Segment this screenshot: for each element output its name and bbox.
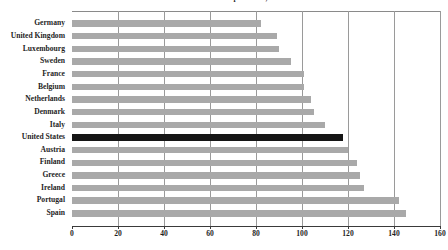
bar-sweden[interactable] bbox=[72, 58, 291, 64]
bar-united-states[interactable] bbox=[72, 134, 343, 141]
y-axis-label-sweden: Sweden bbox=[40, 55, 65, 68]
bar-italy[interactable] bbox=[72, 122, 325, 128]
bar-united-kingdom[interactable] bbox=[72, 33, 277, 39]
bar-portugal[interactable] bbox=[72, 197, 399, 203]
x-axis-tick-label-0: 0 bbox=[70, 229, 74, 238]
bar-germany[interactable] bbox=[72, 20, 261, 26]
bar-row bbox=[72, 169, 440, 182]
bar-austria[interactable] bbox=[72, 147, 348, 153]
y-axis-label-spain: Spain bbox=[46, 207, 65, 220]
bar-ireland[interactable] bbox=[72, 185, 364, 191]
bar-row bbox=[72, 182, 440, 195]
y-axis-label-italy: Italy bbox=[50, 119, 65, 132]
bar-row bbox=[72, 156, 440, 169]
x-axis-tick-label-60: 60 bbox=[206, 229, 214, 238]
bar-row bbox=[72, 194, 440, 207]
bar-spain[interactable] bbox=[72, 210, 406, 216]
plot-area bbox=[72, 11, 440, 226]
y-axis-label-belgium: Belgium bbox=[38, 81, 65, 94]
bar-row bbox=[72, 131, 440, 144]
bar-row bbox=[72, 30, 440, 43]
x-axis-tick-label-120: 120 bbox=[342, 229, 353, 238]
y-axis-label-denmark: Denmark bbox=[34, 106, 65, 119]
bar-row bbox=[72, 144, 440, 157]
bar-belgium[interactable] bbox=[72, 84, 304, 90]
y-axis-label-ireland: Ireland bbox=[41, 182, 65, 195]
y-axis-label-luxembourg: Luxembourg bbox=[23, 43, 65, 56]
y-axis-label-united-kingdom: United Kingdom bbox=[11, 30, 65, 43]
bar-row bbox=[72, 55, 440, 68]
bar-luxembourg[interactable] bbox=[72, 46, 279, 52]
y-axis-label-greece: Greece bbox=[42, 169, 65, 182]
chart-title: Total Health Care Expenditure, 1997 bbox=[0, 0, 448, 2]
bar-row bbox=[72, 81, 440, 94]
bar-row bbox=[72, 93, 440, 106]
y-axis-label-portugal: Portugal bbox=[37, 194, 65, 207]
bar-finland[interactable] bbox=[72, 160, 357, 166]
x-axis-tick-label-140: 140 bbox=[388, 229, 399, 238]
x-axis-tick-label-20: 20 bbox=[114, 229, 122, 238]
x-axis-tick-label-80: 80 bbox=[252, 229, 260, 238]
bar-denmark[interactable] bbox=[72, 109, 314, 115]
bar-row bbox=[72, 68, 440, 81]
y-axis-labels: GermanyUnited KingdomLuxembourgSwedenFra… bbox=[0, 11, 69, 226]
y-axis-label-finland: Finland bbox=[40, 156, 65, 169]
x-axis-tick-label-160: 160 bbox=[434, 229, 445, 238]
bar-chart: Total Health Care Expenditure, 1997 Germ… bbox=[0, 0, 448, 250]
y-axis-label-netherlands: Netherlands bbox=[25, 93, 65, 106]
bar-greece[interactable] bbox=[72, 172, 360, 178]
bar-row bbox=[72, 43, 440, 56]
y-axis-label-france: France bbox=[42, 68, 65, 81]
y-axis-label-germany: Germany bbox=[34, 17, 65, 30]
bar-row bbox=[72, 17, 440, 30]
bar-row bbox=[72, 106, 440, 119]
x-axis-tick-label-40: 40 bbox=[160, 229, 168, 238]
gridline-160 bbox=[440, 11, 441, 226]
bar-row bbox=[72, 207, 440, 220]
x-axis-tick-labels: 020406080100120140160 bbox=[0, 229, 448, 243]
bar-france[interactable] bbox=[72, 71, 304, 77]
y-axis-label-austria: Austria bbox=[41, 144, 65, 157]
bar-netherlands[interactable] bbox=[72, 96, 311, 102]
x-axis-tick-label-100: 100 bbox=[296, 229, 307, 238]
bar-row bbox=[72, 119, 440, 132]
y-axis-label-united-states: United States bbox=[22, 131, 65, 144]
